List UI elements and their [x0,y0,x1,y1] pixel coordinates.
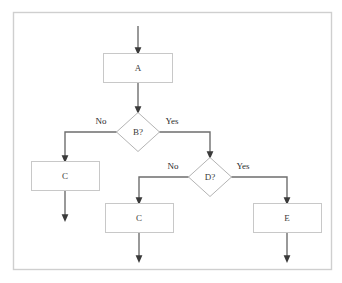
edge-label-d-yes: Yes [236,161,250,171]
flowchart-canvas: A B? No Yes C D? No Yes C E [0,0,342,283]
node-b-label: B? [133,127,143,137]
edge-label-b-no: No [96,116,107,126]
node-c2-label: C [136,213,142,223]
node-d-label: D? [205,172,216,182]
flowchart-svg: A B? No Yes C D? No Yes C E [0,0,342,283]
edge-label-b-yes: Yes [165,116,179,126]
node-a-label: A [135,63,142,73]
node-c1-label: C [62,171,68,181]
edge-label-d-no: No [168,161,179,171]
node-e-label: E [284,213,290,223]
